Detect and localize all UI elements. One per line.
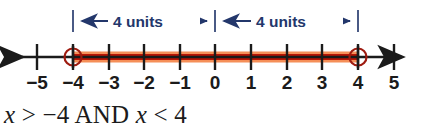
inequality-conjunction: AND (70, 101, 136, 129)
axis-tick-label: −3 (98, 72, 120, 93)
axis-tick-label: 2 (282, 72, 293, 93)
axis-tick-label: 4 (353, 72, 364, 93)
span-annotation-group: 4 units 4 units (73, 10, 358, 32)
axis-tick-label: 1 (246, 72, 257, 93)
span-label-left: 4 units (113, 13, 163, 30)
axis-tick-label: −2 (133, 72, 155, 93)
inequality-lhs-value: −4 (43, 101, 70, 129)
span-label-right: 4 units (256, 13, 306, 30)
axis-tick-label: 0 (210, 72, 221, 93)
number-line-diagram: 4 units 4 units (0, 0, 424, 96)
axis-tick-label: 3 (317, 72, 328, 93)
axis-tick-label: −5 (26, 72, 48, 93)
inequality-lhs-variable: x (4, 101, 15, 129)
axis-tick-label: −4 (62, 72, 84, 93)
inequality-rhs-variable: x (136, 101, 147, 129)
inequality-statement: x > −4 AND x < 4 (4, 96, 420, 134)
axis-tick-labels: −5 −4 −3 −2 −1 0 1 2 3 4 5 (26, 72, 400, 93)
inequality-lhs-operator: > (15, 101, 42, 129)
axis-tick-label: 5 (389, 72, 400, 93)
axis-tick-label: −1 (169, 72, 191, 93)
inequality-rhs-operator: < (147, 101, 174, 129)
inequality-rhs-value: 4 (174, 101, 187, 129)
number-line-figure: 4 units 4 units (0, 0, 424, 134)
